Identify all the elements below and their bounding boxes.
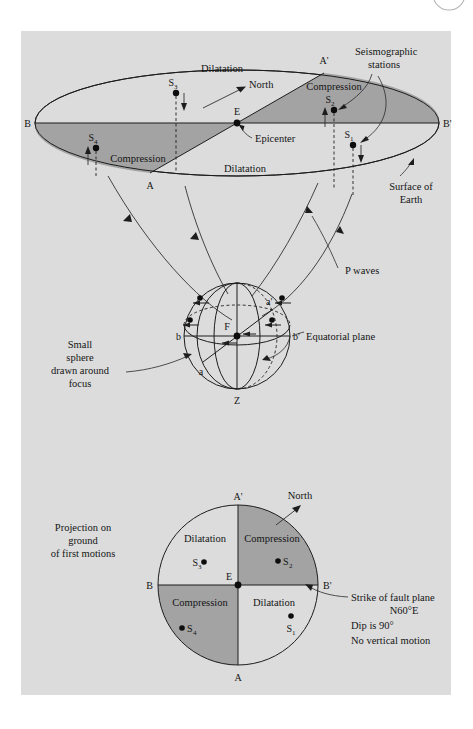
focus-dot <box>234 333 241 340</box>
small-sphere-label-line3: drawn around <box>51 365 110 376</box>
strike-label-line1: Strike of fault plane <box>351 592 435 603</box>
bottom-label-b-right: B' <box>323 580 332 591</box>
figure-root: B B' A' A E Dilatation Compression Compr… <box>0 0 473 729</box>
top-label-a-bottom: A <box>146 180 154 191</box>
station-dot <box>288 613 294 619</box>
motion-dot <box>279 295 285 301</box>
top-dilatation-upper-label: Dilatation <box>201 63 244 74</box>
bottom-dilatation-upper-label: Dilatation <box>184 533 227 544</box>
top-label-center-e: E <box>234 106 240 117</box>
surface-of-earth-label-line1: Surface of <box>389 181 433 192</box>
projection-label-line2: ground <box>68 535 98 546</box>
sphere-label-a-lower: a <box>199 366 204 377</box>
bottom-station-s2-sub: 2 <box>289 562 293 570</box>
strike-label-line3: Dip is 90° <box>351 620 394 631</box>
bottom-label-b-left: B <box>146 580 153 591</box>
top-dilatation-lower-label: Dilatation <box>224 163 267 174</box>
bottom-station-s4-label: S <box>187 623 193 634</box>
seismographic-stations-label-line2: stations <box>368 59 400 70</box>
sphere-label-zenith-z: Z <box>234 395 240 406</box>
top-label-a-top: A' <box>319 55 328 66</box>
small-sphere-label-line2: sphere <box>66 352 94 363</box>
sphere-label-a-upper: a' <box>266 296 272 307</box>
top-station-s2-sub: 2 <box>331 100 335 108</box>
small-sphere-label-line1: Small <box>68 339 93 350</box>
top-compression-lower-label: Compression <box>110 153 166 164</box>
top-station-s4-sub: 4 <box>94 138 98 146</box>
sphere-label-b-left: b <box>176 331 181 342</box>
bottom-station-s2-label: S <box>283 556 289 567</box>
bottom-epicenter-dot <box>235 582 242 589</box>
bottom-station-s4-sub: 4 <box>193 629 197 637</box>
bottom-north-label: North <box>288 490 313 501</box>
seismographic-stations-label-line1: Seismographic <box>355 46 418 57</box>
equatorial-plane-label: Equatorial plane <box>306 331 375 342</box>
bottom-label-center-e: E <box>226 571 232 582</box>
bottom-station-s1-sub: 1 <box>292 629 296 637</box>
bottom-dilatation-lower-label: Dilatation <box>253 597 296 608</box>
top-label-b-right: B' <box>443 118 452 129</box>
motion-dot <box>197 295 203 301</box>
small-sphere-label-line4: focus <box>69 378 92 389</box>
p-waves-label: P waves <box>345 265 379 276</box>
bottom-compression-upper-label: Compression <box>244 533 300 544</box>
sphere-label-b-right: b' <box>293 331 300 342</box>
motion-dot <box>187 317 193 323</box>
top-compression-upper-label: Compression <box>306 81 362 92</box>
top-north-label: North <box>249 79 274 90</box>
station-dot <box>201 559 207 565</box>
top-epicenter-label: Epicenter <box>255 133 296 144</box>
motion-dot <box>269 317 275 323</box>
top-label-b-left: B <box>24 118 31 129</box>
projection-label-line3: of first motions <box>51 548 116 559</box>
bottom-label-a-top: A' <box>233 491 242 502</box>
top-station-s3-sub: 3 <box>174 83 178 91</box>
bottom-label-a-bottom: A <box>234 672 242 683</box>
station-dot <box>179 625 185 631</box>
projection-label-line1: Projection on <box>55 522 112 533</box>
bottom-station-s3-sub: 3 <box>198 563 202 571</box>
sphere-label-focus-f: F <box>224 321 230 332</box>
top-station-s1-sub: 1 <box>350 135 354 143</box>
strike-label-line4: No vertical motion <box>351 635 431 646</box>
station-dot <box>275 558 281 564</box>
strike-label-line2: N60°E <box>390 605 419 616</box>
bottom-compression-lower-label: Compression <box>172 597 228 608</box>
surface-of-earth-label-line2: Earth <box>400 194 423 205</box>
